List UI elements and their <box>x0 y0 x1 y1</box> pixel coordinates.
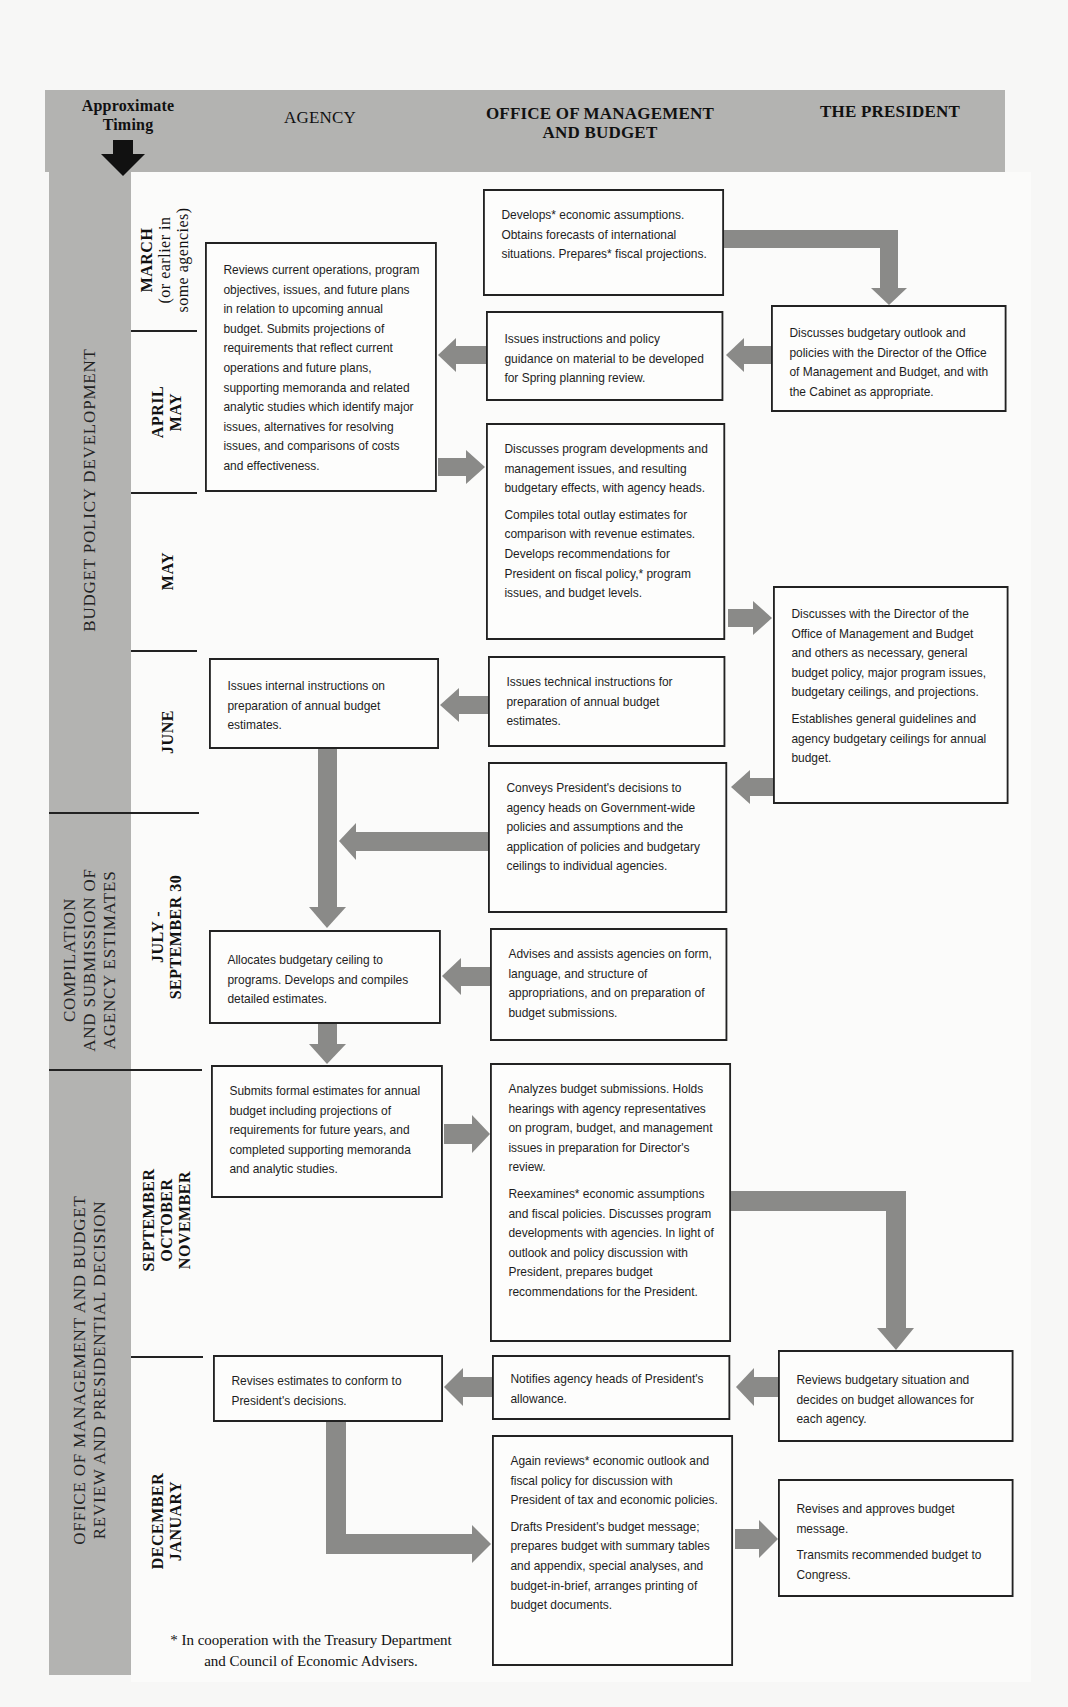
omb-box-convey-decisions: Conveys President's decisions to agency … <box>488 762 727 913</box>
arrow-down-icon <box>309 1024 346 1064</box>
agency-box-allocate-ceiling: Allocates budgetary ceiling to programs.… <box>209 930 441 1024</box>
arrow-left-icon <box>438 338 486 372</box>
arrow-left-icon <box>440 688 488 722</box>
arrow-left-icon <box>339 823 488 860</box>
omb-box-economic-assumptions: Develops* economic assumptions. Obtains … <box>483 189 724 296</box>
arrow-left-icon <box>726 338 771 372</box>
agency-box-revise-estimates: Revises estimates to conform to Presiden… <box>213 1355 443 1422</box>
omb-box-notify-allowance: Notifies agency heads of President's all… <box>492 1355 730 1420</box>
omb-box-technical-instructions: Issues technical instructions for prepar… <box>488 656 725 747</box>
agency-box-internal-instructions: Issues internal instructions on preparat… <box>209 658 439 749</box>
arrow-right-icon <box>735 1520 778 1558</box>
omb-box-program-developments: Discusses program developments and manag… <box>486 423 725 640</box>
arrow-right-down-icon <box>730 1191 914 1350</box>
omb-box-advise-agencies: Advises and assists agencies on form, la… <box>490 928 727 1041</box>
arrow-right-icon <box>728 601 772 635</box>
arrow-down-right-icon <box>326 1422 491 1563</box>
arrow-right-icon <box>444 1115 490 1153</box>
president-box-transmit-budget: Revises and approves budget message. Tra… <box>778 1479 1014 1597</box>
arrow-left-icon <box>444 1368 492 1406</box>
arrow-down-icon <box>309 749 346 928</box>
president-box-general-policy: Discusses with the Director of the Offic… <box>773 586 1009 804</box>
arrow-left-icon <box>731 770 773 804</box>
omb-box-analyze-submissions: Analyzes budget submissions. Holds heari… <box>490 1063 731 1342</box>
agency-box-review-operations: Reviews current operations, program obje… <box>205 242 437 492</box>
agency-box-submit-estimates: Submits formal estimates for annual budg… <box>211 1065 443 1198</box>
president-box-budgetary-outlook: Discusses budgetary outlook and policies… <box>771 305 1007 412</box>
arrow-left-icon <box>442 958 490 995</box>
arrow-left-icon <box>736 1368 778 1406</box>
president-box-decide-allowances: Reviews budgetary situation and decides … <box>778 1350 1014 1442</box>
arrow-right-down-icon <box>723 230 907 305</box>
footnote: * In cooperation with the Treasury Depar… <box>136 1630 486 1672</box>
omb-box-policy-guidance: Issues instructions and policy guidance … <box>486 311 723 401</box>
arrow-right-icon <box>438 450 485 484</box>
omb-box-draft-budget-message: Again reviews* economic outlook and fisc… <box>492 1435 733 1666</box>
